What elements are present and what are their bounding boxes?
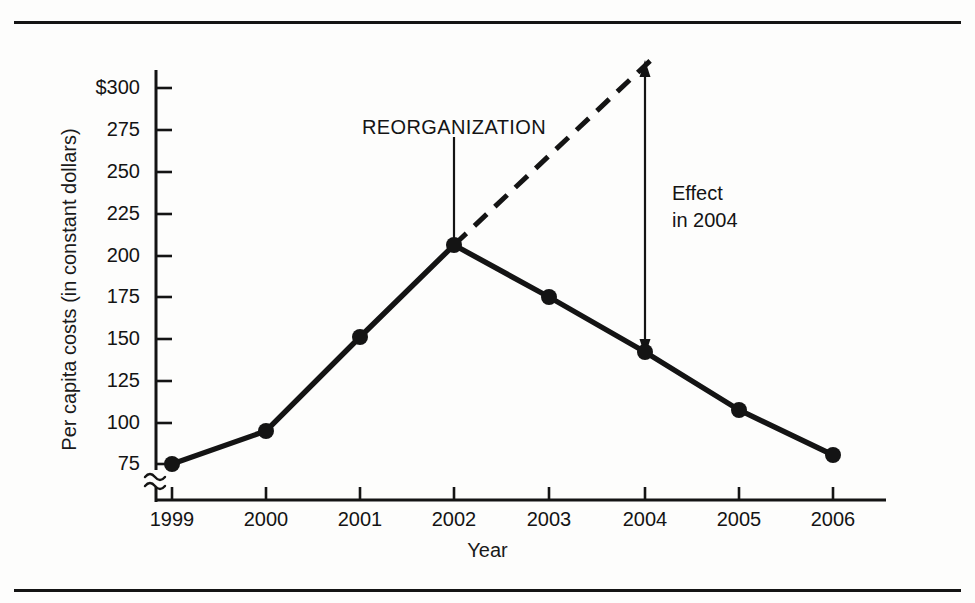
ytick-label-75: 75	[48, 452, 140, 476]
data-point-1999	[164, 456, 180, 472]
xtick-label-2001: 2001	[310, 508, 410, 532]
effect-annotation-line1: Effect	[672, 182, 738, 206]
effect-annotation-label: Effect in 2004	[672, 182, 738, 232]
effect-annotation-line2: in 2004	[672, 209, 738, 233]
xtick-label-2003: 2003	[499, 508, 599, 532]
x-axis-ticks	[172, 487, 833, 500]
figure-panel: $300 275 250 225 200 175 150 125 100 75 …	[0, 0, 975, 603]
reorganization-annotation-label: REORGANIZATION	[362, 116, 546, 140]
x-axis-title: Year	[0, 539, 975, 562]
xtick-label-1999: 1999	[122, 508, 222, 532]
data-point-2002	[446, 237, 462, 253]
data-point-2001	[352, 329, 368, 345]
xtick-label-2002: 2002	[404, 508, 504, 532]
data-point-2003	[541, 289, 557, 305]
y-axis-break-icon	[145, 474, 165, 489]
data-point-2004	[637, 344, 653, 360]
data-point-2006	[825, 447, 841, 463]
data-point-2000	[258, 423, 274, 439]
xtick-label-2006: 2006	[783, 508, 883, 532]
ytick-label-300: $300	[48, 76, 140, 100]
xtick-label-2004: 2004	[595, 508, 695, 532]
y-axis-ticks	[156, 88, 172, 464]
y-axis-title: Per capita costs (in constant dollars)	[58, 125, 81, 455]
projected-trend-dashed-line	[454, 60, 651, 245]
xtick-label-2005: 2005	[689, 508, 789, 532]
effect-arrow	[640, 60, 651, 356]
xtick-label-2000: 2000	[216, 508, 316, 532]
data-point-2005	[731, 402, 747, 418]
